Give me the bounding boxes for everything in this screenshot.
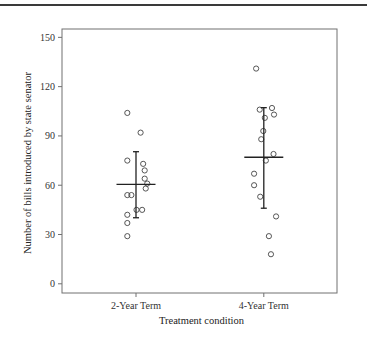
data-point: [145, 181, 150, 186]
strip-chart: 0306090120150 2-Year Term4-Year Term Num…: [0, 0, 367, 341]
data-point: [140, 207, 145, 212]
data-point: [142, 168, 147, 173]
x-axis: 2-Year Term4-Year Term: [111, 293, 289, 311]
y-tick-label: 60: [45, 180, 55, 191]
data-point: [125, 158, 130, 163]
y-tick-label: 0: [50, 278, 55, 289]
plot-frame: [62, 29, 337, 293]
data-point: [125, 212, 130, 217]
data-point: [271, 112, 276, 117]
data-point: [125, 234, 130, 239]
data-point: [271, 151, 276, 156]
y-tick-label: 30: [45, 229, 55, 240]
data-point: [258, 194, 263, 199]
data-point: [273, 214, 278, 219]
data-point: [254, 66, 259, 71]
data-point: [259, 137, 264, 142]
series-two-year-term: [117, 110, 156, 238]
data-point: [142, 176, 147, 181]
x-tick-label: 2-Year Term: [111, 300, 161, 311]
data-point: [269, 105, 274, 110]
x-tick-label: 4-Year Term: [239, 300, 289, 311]
data-point: [141, 161, 146, 166]
data-point: [251, 183, 256, 188]
y-tick-label: 90: [45, 130, 55, 141]
data-point: [143, 186, 148, 191]
data-point: [266, 234, 271, 239]
y-axis-title: Number of bills introduced by state sena…: [22, 72, 33, 254]
data-point: [251, 171, 256, 176]
series-four-year-term: [244, 66, 283, 257]
data-point: [125, 110, 130, 115]
data-point: [138, 130, 143, 135]
y-axis: 0306090120150: [40, 32, 62, 289]
x-axis-title: Treatment condition: [159, 315, 245, 326]
data-point: [268, 252, 273, 257]
data-point: [262, 115, 267, 120]
y-tick-label: 120: [40, 81, 55, 92]
data-point: [125, 220, 130, 225]
y-tick-label: 150: [40, 32, 55, 43]
data-marks: [117, 66, 284, 257]
